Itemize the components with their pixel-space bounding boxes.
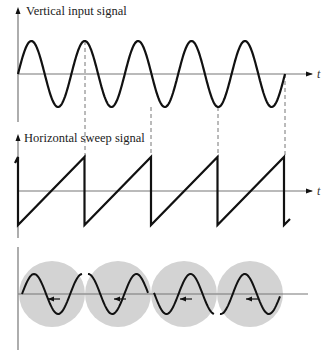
t-axis-arrow-icon xyxy=(306,189,313,194)
vertical-t-axis-label: t xyxy=(317,68,320,80)
t-axis-arrow-icon xyxy=(306,72,313,77)
horizontal-signal-label: Horizontal sweep signal xyxy=(24,132,145,145)
oscilloscope-diagram: Vertical input signal t Horizontal sweep… xyxy=(0,0,329,360)
vertical-signal-label: Vertical input signal xyxy=(26,5,127,18)
horizontal-t-axis-label: t xyxy=(317,185,320,197)
horizontal-axis-arrow-icon xyxy=(16,134,21,141)
vertical-axis-arrow-icon xyxy=(16,7,21,14)
diagram-canvas xyxy=(0,0,329,360)
